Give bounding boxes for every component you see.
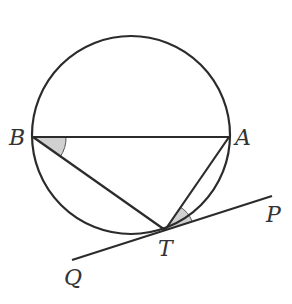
label-p: P	[265, 202, 282, 227]
label-q: Q	[64, 265, 82, 290]
circle	[32, 36, 230, 234]
label-t: T	[158, 236, 175, 261]
label-b: B	[8, 125, 25, 150]
label-a: A	[233, 125, 251, 150]
segment-bt	[33, 137, 165, 230]
segment-at	[165, 137, 229, 230]
geometry-diagram: B A T P Q	[0, 0, 292, 304]
diagram-canvas: B A T P Q	[0, 0, 292, 304]
